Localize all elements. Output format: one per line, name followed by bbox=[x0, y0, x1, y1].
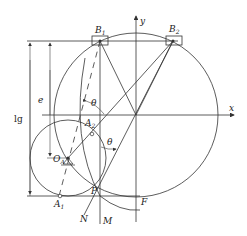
label-oa: OA bbox=[53, 154, 65, 165]
line-b2-oa bbox=[68, 41, 173, 158]
label-a1: A1 bbox=[53, 199, 64, 210]
label-f: F bbox=[140, 197, 148, 207]
joint-b2 bbox=[172, 40, 175, 43]
mechanism-diagram: B1 B2 y x e lg θ θ OA A2 A1 P N M F bbox=[0, 0, 247, 236]
joint-a2 bbox=[90, 132, 94, 136]
label-m: M bbox=[102, 216, 113, 226]
joint-a1 bbox=[58, 194, 62, 198]
label-a2: A2 bbox=[84, 118, 96, 129]
label-n: N bbox=[79, 214, 89, 224]
theta-arc-lower bbox=[101, 147, 116, 149]
label-lg: lg bbox=[14, 114, 23, 124]
label-p: P bbox=[90, 186, 98, 196]
line-n bbox=[84, 41, 173, 215]
label-theta-upper: θ bbox=[91, 98, 97, 108]
label-b2: B2 bbox=[168, 24, 180, 35]
label-theta-lower: θ bbox=[107, 137, 113, 147]
line-b1-origin bbox=[100, 41, 136, 115]
label-b1: B1 bbox=[94, 25, 105, 36]
joint-b1 bbox=[99, 40, 102, 43]
label-e: e bbox=[38, 95, 43, 105]
label-x-axis: x bbox=[229, 103, 234, 113]
label-y-axis: y bbox=[139, 16, 146, 26]
